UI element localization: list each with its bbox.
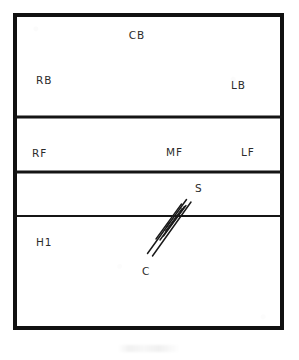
label-lf: LF bbox=[241, 146, 255, 158]
label-c: C bbox=[142, 265, 150, 277]
label-cb: CB bbox=[129, 29, 145, 41]
label-mf: MF bbox=[166, 146, 183, 158]
label-rb: RB bbox=[36, 74, 52, 86]
paper-background bbox=[0, 0, 299, 360]
label-s: S bbox=[195, 182, 202, 194]
label-h1: H1 bbox=[36, 236, 52, 248]
label-rf: RF bbox=[32, 147, 47, 159]
label-lb: LB bbox=[231, 79, 246, 91]
region-diagram-figure: CB RB LB RF MF LF S H1 C bbox=[0, 0, 299, 360]
